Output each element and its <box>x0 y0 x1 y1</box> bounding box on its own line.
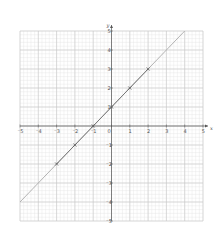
y-tick-label: ⁻1 <box>106 142 112 148</box>
x-tick-label: ⁻4 <box>36 128 42 134</box>
x-tick-label: 1 <box>129 128 132 134</box>
plotted-segment <box>57 69 149 164</box>
y-tick-label: ⁻3 <box>106 180 112 186</box>
plotted-points <box>55 67 150 165</box>
x-tick-label: 3 <box>165 128 168 134</box>
y-tick-label: ⁻4 <box>106 199 112 205</box>
y-tick-label: 5 <box>108 28 111 34</box>
x-tick-label: 5 <box>202 128 205 134</box>
x-tick-label: ⁻2 <box>72 128 78 134</box>
y-tick-label: ⁻2 <box>106 161 112 167</box>
x-tick-label: ⁻5 <box>18 128 24 134</box>
axes: xy <box>20 22 213 221</box>
x-axis-arrow-icon <box>205 125 208 128</box>
y-tick-label: 4 <box>108 47 111 53</box>
x-tick-label: ⁻3 <box>54 128 60 134</box>
x-axis-label: x <box>210 125 213 131</box>
y-tick-label: ⁻5 <box>106 218 112 224</box>
x-tick-label: 2 <box>147 128 150 134</box>
y-tick-label: 2 <box>108 85 111 91</box>
x-tick-label: 0 <box>108 128 111 134</box>
coordinate-plane: xy ⁻5⁻4⁻3⁻2⁻1012345⁻5⁻4⁻3⁻2⁻112345 <box>0 0 223 238</box>
x-tick-label: 4 <box>184 128 187 134</box>
x-tick-label: ⁻1 <box>91 128 97 134</box>
y-tick-label: 3 <box>108 66 111 72</box>
